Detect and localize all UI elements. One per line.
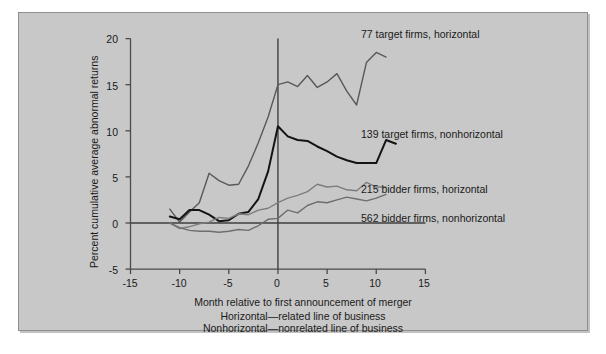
caption-horizontal: Horizontal—related line of business (0, 310, 606, 322)
y-tick-20: 20 (84, 33, 118, 45)
series-label-target-nonhorizontal: 139 target firms, nonhorizontal (361, 128, 503, 140)
x-tick-0: 0 (257, 277, 297, 289)
caption-nonhorizontal: Nonhorizontal—nonrelated line of busines… (0, 322, 606, 334)
x-tick-15: 15 (404, 277, 444, 289)
x-tick-minus5: -5 (208, 277, 248, 289)
series-label-bidder-horizontal: 215 bidder firms, horizontal (361, 183, 488, 195)
x-tick-10: 10 (355, 277, 395, 289)
series-label-bidder-nonhorizontal: 562 bidder firms, nonhorizontal (361, 212, 505, 224)
x-axis-title: Month relative to first announcement of … (0, 296, 606, 308)
x-tick-minus15: -15 (110, 277, 150, 289)
series-label-target-horizontal: 77 target firms, horizontal (361, 28, 479, 40)
y-axis-title: Percent cumulative average abnormal retu… (88, 56, 100, 268)
figure-root: 20 15 10 5 0 -5 -15 -10 -5 0 5 10 15 Per… (0, 0, 606, 354)
x-tick-5: 5 (306, 277, 346, 289)
x-tick-minus10: -10 (159, 277, 199, 289)
